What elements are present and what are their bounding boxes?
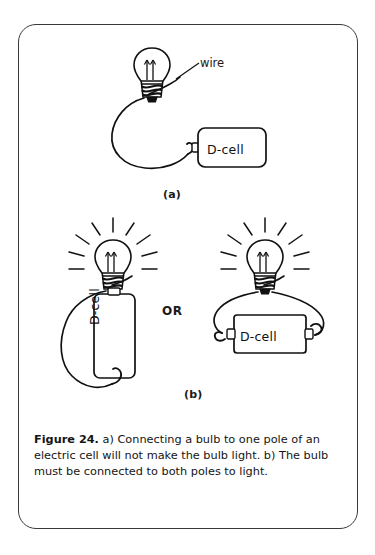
panel-b-label: (b) bbox=[184, 388, 203, 401]
panel-a-label: (a) bbox=[163, 188, 181, 201]
figure-caption: Figure 24. a) Connecting a bulb to one p… bbox=[34, 432, 334, 480]
d-cell-label-b-left: D-cell bbox=[87, 288, 102, 325]
wire-annotation-label: wire bbox=[200, 56, 224, 70]
d-cell-label-b-right: D-cell bbox=[240, 329, 277, 344]
or-separator-label: OR bbox=[162, 304, 183, 318]
figure-number: Figure 24. bbox=[34, 433, 99, 446]
figure-container: wire D-cell (a) D-cell OR D-cell (b) Fig… bbox=[0, 0, 375, 555]
d-cell-label-a: D-cell bbox=[207, 142, 244, 157]
